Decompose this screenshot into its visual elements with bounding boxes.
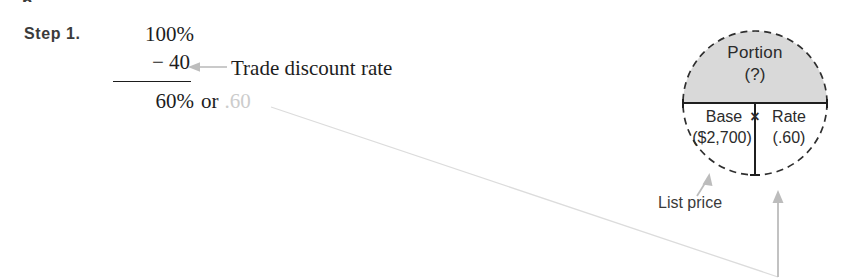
figure-canvas: p Step 1. 100% − 40 60%or.60 Trade disco… [0, 0, 846, 278]
up-arrow-icon [773, 190, 784, 203]
cut-off-text-fragment: p [22, 0, 38, 2]
list-price-label: List price [658, 194, 722, 212]
calculation-result-row: 60%or.60 [108, 88, 251, 114]
calculation-rule-line [113, 81, 191, 82]
left-arrow-icon [188, 61, 228, 73]
calculation-block: 100% − 40 [108, 20, 194, 76]
step-label: Step 1. [24, 25, 81, 43]
calc-result-decimal: .60 [225, 89, 251, 113]
portion-label: Portion [681, 43, 829, 63]
rate-label: Rate [761, 108, 817, 126]
portion-value: (?) [681, 65, 829, 85]
trade-discount-rate-label: Trade discount rate [231, 55, 392, 81]
rate-value: (.60) [759, 129, 819, 147]
calc-result: 60% [108, 88, 194, 114]
calc-line-2: − 40 [108, 48, 194, 76]
calc-line-1: 100% [108, 20, 194, 48]
base-value: ($2,700) [682, 129, 762, 147]
base-rate-portion-circle: Portion (?) Base ($2,700) × Rate (.60) [681, 20, 829, 184]
calc-result-connector: or [201, 89, 219, 113]
